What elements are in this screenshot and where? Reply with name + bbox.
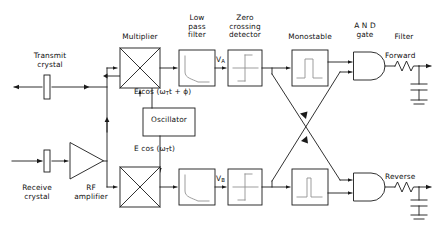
filter-label: Filter [382, 33, 426, 42]
resistor-a-icon [395, 61, 419, 71]
receive-crystal-icon [44, 150, 50, 172]
multiplier-label: Multiplier [106, 33, 174, 42]
lowpass-a-block [179, 50, 215, 86]
node-b-subscript: B [221, 177, 225, 183]
diagram-canvas: Transmitcrystal Receivecrystal RFamplifi… [0, 0, 437, 231]
rf-amplifier-icon [70, 143, 103, 179]
transmit-signal-expression: E cos (ωTt + ϕ) [134, 88, 191, 98]
and-gate-b-icon [354, 173, 385, 201]
monostable-label: Monostable [275, 33, 345, 42]
cross-arrow-top [300, 112, 308, 120]
node-b-label: VB [216, 175, 225, 185]
and-gate-a-icon [354, 52, 385, 80]
resistor-b-icon [395, 182, 419, 192]
cross-arrow-bottom [301, 136, 308, 144]
osc-up-arrow [105, 117, 110, 122]
node-a-label: VA [216, 56, 225, 66]
receive-crystal-label: Receivecrystal [8, 184, 66, 201]
transmit-crystal-label: Transmitcrystal [14, 52, 86, 69]
transmit-crystal-icon [44, 75, 50, 99]
monostable-b-block [292, 169, 328, 205]
oscillator-label: Oscillator [143, 116, 195, 125]
lowpass-b-block [179, 169, 215, 205]
rf-amplifier-label: RFamplifier [63, 184, 119, 201]
zero-crossing-detector-label: Zerocrossingdetector [208, 14, 282, 40]
monostable-a-block [292, 50, 328, 86]
transmit-feed-arrow [84, 85, 89, 90]
node-a-subscript: A [221, 58, 225, 64]
oscillator-signal-expression: E cos (ωTt) [134, 145, 175, 155]
osc-transmit-arrow [103, 74, 108, 79]
reverse-output-label: Reverse [385, 173, 415, 182]
forward-output-label: Forward [385, 52, 415, 61]
